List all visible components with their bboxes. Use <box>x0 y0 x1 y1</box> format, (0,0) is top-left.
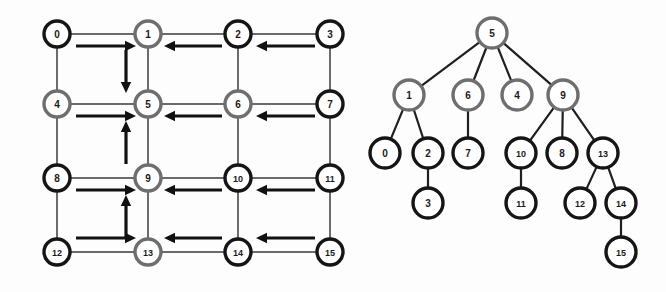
grid-node-3[interactable]: 3 <box>317 21 343 47</box>
grid-node-2[interactable]: 2 <box>225 21 251 47</box>
tree-edge-5-4 <box>498 47 512 81</box>
tree-edge-9-13 <box>572 107 595 140</box>
grid-node-0[interactable]: 0 <box>44 21 70 47</box>
tree-node-circle-12[interactable] <box>565 188 595 218</box>
tree-edge-1-2 <box>414 109 424 138</box>
traversal-arrow-3-to-2 <box>256 41 315 51</box>
tree-node-circle-4[interactable] <box>502 80 532 110</box>
grid-edge-layer <box>57 34 330 252</box>
grid-node-circle-12[interactable] <box>44 239 70 265</box>
tree-node-9[interactable]: 9 <box>548 80 578 110</box>
tree-node-circle-11[interactable] <box>506 188 536 218</box>
tree-node-circle-6[interactable] <box>453 80 483 110</box>
grid-node-10[interactable]: 10 <box>225 165 251 191</box>
tree-node-circle-10[interactable] <box>506 138 536 168</box>
grid-node-circle-2[interactable] <box>225 21 251 47</box>
figure-root: 0123456789101112131415 51649027108133111… <box>0 0 666 292</box>
traversal-arrow-9-to-5 <box>121 121 131 164</box>
tree-node-circle-8[interactable] <box>547 138 577 168</box>
grid-node-circle-8[interactable] <box>44 165 70 191</box>
tree-edge-13-12 <box>586 167 596 190</box>
grid-node-circle-15[interactable] <box>317 239 343 265</box>
grid-node-circle-7[interactable] <box>317 91 343 117</box>
tree-edge-5-6 <box>473 47 486 81</box>
tree-node-circle-14[interactable] <box>606 188 636 218</box>
grid-node-circle-0[interactable] <box>44 21 70 47</box>
grid-node-8[interactable]: 8 <box>44 165 70 191</box>
traversal-arrow-0-to-1 <box>76 41 136 51</box>
traversal-arrow-4-to-5 <box>76 111 136 121</box>
grid-node-circle-3[interactable] <box>317 21 343 47</box>
tree-node-layer: 5164902710813311121415 <box>370 18 636 267</box>
tree-node-1[interactable]: 1 <box>394 80 424 110</box>
traversal-arrow-11-to-10 <box>256 185 315 195</box>
tree-node-8[interactable]: 8 <box>547 138 577 168</box>
traversal-arrow-2-to-1 <box>164 41 222 51</box>
grid-graph-panel: 0123456789101112131415 <box>44 21 343 265</box>
spanning-tree-panel: 5164902710813311121415 <box>370 18 636 267</box>
tree-node-circle-0[interactable] <box>370 138 400 168</box>
traversal-arrow-13-to-9 <box>121 195 131 238</box>
tree-node-2[interactable]: 2 <box>413 138 443 168</box>
tree-node-circle-3[interactable] <box>413 188 443 218</box>
grid-arrow-layer <box>76 41 315 243</box>
tree-node-0[interactable]: 0 <box>370 138 400 168</box>
grid-node-11[interactable]: 11 <box>317 165 343 191</box>
tree-node-12[interactable]: 12 <box>565 188 595 218</box>
tree-node-4[interactable]: 4 <box>502 80 532 110</box>
grid-node-circle-13[interactable] <box>135 239 161 265</box>
grid-node-15[interactable]: 15 <box>317 239 343 265</box>
traversal-arrow-10-to-9 <box>164 185 222 195</box>
grid-node-circle-9[interactable] <box>135 165 161 191</box>
tree-node-circle-9[interactable] <box>548 80 578 110</box>
tree-node-7[interactable]: 7 <box>453 138 483 168</box>
grid-node-circle-1[interactable] <box>135 21 161 47</box>
grid-node-14[interactable]: 14 <box>225 239 251 265</box>
tree-node-11[interactable]: 11 <box>506 188 536 218</box>
traversal-arrow-14-to-13 <box>164 233 222 243</box>
grid-node-9[interactable]: 9 <box>135 165 161 191</box>
tree-node-circle-15[interactable] <box>606 237 636 267</box>
grid-node-12[interactable]: 12 <box>44 239 70 265</box>
traversal-arrow-7-to-6 <box>256 111 315 121</box>
grid-node-7[interactable]: 7 <box>317 91 343 117</box>
grid-node-5[interactable]: 5 <box>135 91 161 117</box>
grid-node-circle-14[interactable] <box>225 239 251 265</box>
tree-node-14[interactable]: 14 <box>606 188 636 218</box>
traversal-arrow-12-to-13 <box>76 233 136 243</box>
tree-node-15[interactable]: 15 <box>606 237 636 267</box>
tree-node-13[interactable]: 13 <box>588 138 618 168</box>
tree-node-3[interactable]: 3 <box>413 188 443 218</box>
grid-node-circle-5[interactable] <box>135 91 161 117</box>
grid-node-1[interactable]: 1 <box>135 21 161 47</box>
tree-node-circle-7[interactable] <box>453 138 483 168</box>
tree-node-circle-1[interactable] <box>394 80 424 110</box>
grid-node-layer: 0123456789101112131415 <box>44 21 343 265</box>
traversal-arrow-1-to-5 <box>121 50 131 93</box>
traversal-arrow-6-to-5 <box>164 111 222 121</box>
tree-node-circle-2[interactable] <box>413 138 443 168</box>
tree-edge-1-0 <box>391 109 404 139</box>
tree-node-10[interactable]: 10 <box>506 138 536 168</box>
tree-node-circle-5[interactable] <box>477 18 507 48</box>
tree-node-5[interactable]: 5 <box>477 18 507 48</box>
grid-node-circle-4[interactable] <box>44 91 70 117</box>
grid-node-circle-6[interactable] <box>225 91 251 117</box>
tree-edge-13-14 <box>608 167 616 189</box>
grid-node-circle-10[interactable] <box>225 165 251 191</box>
traversal-arrow-15-to-14 <box>256 233 315 243</box>
grid-node-6[interactable]: 6 <box>225 91 251 117</box>
tree-node-6[interactable]: 6 <box>453 80 483 110</box>
figure-canvas: 0123456789101112131415 51649027108133111… <box>0 0 666 292</box>
grid-node-circle-11[interactable] <box>317 165 343 191</box>
tree-edge-9-10 <box>530 107 554 141</box>
grid-node-4[interactable]: 4 <box>44 91 70 117</box>
traversal-arrow-8-to-9 <box>76 185 136 195</box>
grid-node-13[interactable]: 13 <box>135 239 161 265</box>
tree-node-circle-13[interactable] <box>588 138 618 168</box>
